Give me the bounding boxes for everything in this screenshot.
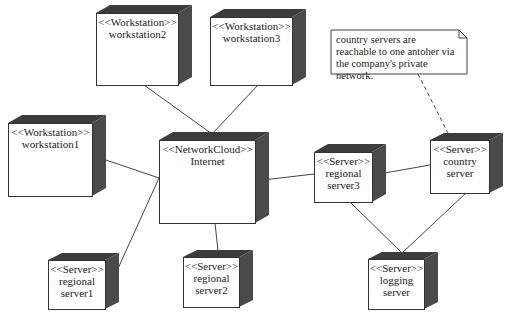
node-name: logging server [369,274,424,298]
stereotype-label: <<Server>> [369,262,424,274]
workstation3-top-face [210,9,306,17]
workstation2-side-face [178,5,192,85]
edge-regional-server2-internet [215,223,218,251]
edge-internet-regional-server3 [263,174,314,180]
edge-regional-server3-country-server [379,165,430,174]
stereotype-label: <<NetworkCloud>> [160,143,255,155]
regional-server1-side-face [105,253,119,309]
edge-workstation2-internet [144,85,212,134]
node-name: regional server3 [315,167,372,191]
node-name: country server [431,155,489,179]
node-name: workstation3 [211,32,292,44]
workstation2-top-face [96,5,192,13]
stereotype-label: <<Server>> [431,143,489,155]
edge-regional-server3-logging-server [350,202,402,253]
regional-server3-side-face [372,144,386,202]
stereotype-label: <<Server>> [315,155,372,167]
edge-workstation1-internet [100,158,159,178]
edge-note-country-server [418,74,448,133]
node-name: regional server2 [184,272,239,296]
node-name: regional server1 [49,275,105,299]
node-name: workstation1 [9,138,92,150]
workstation1-top-face [8,115,106,123]
regional-server2-side-face [239,250,253,307]
edge-country-server-logging-server [402,193,466,253]
stereotype-label: <<Workstation>> [97,16,178,28]
node-name: Internet [160,155,255,167]
internet-top-face [159,132,269,140]
deployment-diagram: <<Workstation>> workstation2 <<Workstati… [0,0,512,318]
stereotype-label: <<Server>> [49,263,105,275]
stereotype-label: <<Server>> [184,260,239,272]
note-comment[interactable]: country servers are reachable to one ant… [332,31,460,74]
workstation3-side-face [292,9,306,85]
edge-workstation3-internet [212,85,258,134]
logging-server-side-face [424,252,438,309]
country-server-side-face [489,133,503,193]
workstation1-side-face [92,115,106,196]
node-name: workstation2 [97,28,178,40]
stereotype-label: <<Workstation>> [9,126,92,138]
internet-side-face [255,132,269,223]
stereotype-label: <<Workstation>> [211,20,292,32]
note-text: country servers are reachable to one ant… [336,34,454,81]
